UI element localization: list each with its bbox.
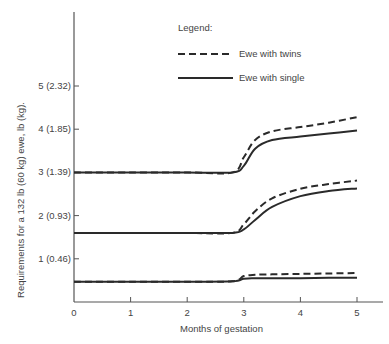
x-tick-label: 3	[241, 307, 246, 318]
legend-label-twins: Ewe with twins	[239, 48, 302, 59]
x-tick-label: 2	[185, 307, 190, 318]
legend-label-single: Ewe with single	[239, 72, 304, 83]
series-lines	[74, 117, 357, 282]
single-series-line	[74, 188, 357, 233]
y-tick-label: 2 (0.93)	[38, 210, 71, 221]
line-chart: 0123451 (0.46)2 (0.93)3 (1.39)4 (1.85)5 …	[0, 0, 389, 344]
y-axis-title: Requirements for a 132 lb (60 kg) ewe, l…	[15, 102, 26, 298]
single-series-line	[74, 130, 357, 172]
x-tick-label: 5	[354, 307, 359, 318]
twins-series-line	[74, 117, 357, 173]
y-tick-label: 3 (1.39)	[38, 166, 71, 177]
twins-series-line	[74, 181, 357, 234]
x-tick-label: 1	[128, 307, 133, 318]
axes: 0123451 (0.46)2 (0.93)3 (1.39)4 (1.85)5 …	[38, 12, 383, 318]
x-tick-label: 4	[298, 307, 303, 318]
x-axis-title: Months of gestation	[180, 323, 263, 334]
y-tick-label: 5 (2.32)	[38, 80, 71, 91]
single-series-line	[74, 278, 357, 282]
legend: Legend: Ewe with twins Ewe with single	[178, 22, 304, 83]
legend-title: Legend:	[178, 22, 212, 33]
y-tick-label: 4 (1.85)	[38, 123, 71, 134]
y-tick-label: 1 (0.46)	[38, 253, 71, 264]
x-tick-label: 0	[71, 307, 76, 318]
